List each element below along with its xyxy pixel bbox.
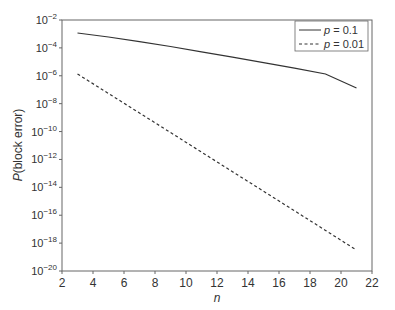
y-tick-label: 10−10 <box>31 124 57 138</box>
x-tick-label: 6 <box>121 276 128 290</box>
plot-area <box>62 20 372 271</box>
y-tick-label: 10−16 <box>31 207 57 221</box>
y-tick-label: 10−12 <box>31 151 57 165</box>
x-axis-ticks: 246810121416182022 <box>59 271 379 290</box>
x-tick-label: 4 <box>90 276 97 290</box>
legend: p = 0.1 p = 0.01 <box>295 21 368 51</box>
y-tick-label: 10−18 <box>31 235 57 249</box>
x-tick-label: 16 <box>272 276 286 290</box>
chart: 246810121416182022 10−210−410−610−810−10… <box>0 0 395 310</box>
legend-label-p01: p = 0.1 <box>323 24 358 36</box>
x-axis-label: n <box>214 291 221 305</box>
x-tick-label: 12 <box>210 276 224 290</box>
y-tick-label: 10−20 <box>31 263 57 277</box>
y-tick-label: 10−14 <box>31 179 57 193</box>
y-axis-label: P(block error) <box>11 109 25 182</box>
x-tick-label: 14 <box>241 276 255 290</box>
x-tick-label: 18 <box>303 276 317 290</box>
x-tick-label: 20 <box>334 276 348 290</box>
x-tick-label: 22 <box>365 276 379 290</box>
x-tick-label: 10 <box>179 276 193 290</box>
legend-label-p001: p = 0.01 <box>323 38 364 50</box>
y-tick-label: 10−6 <box>36 68 58 82</box>
y-tick-label: 10−8 <box>36 96 58 110</box>
x-tick-label: 8 <box>152 276 159 290</box>
x-tick-label: 2 <box>59 276 66 290</box>
y-tick-label: 10−4 <box>36 40 58 54</box>
y-axis-ticks: 10−210−410−610−810−1010−1210−1410−1610−1… <box>31 12 62 277</box>
y-tick-label: 10−2 <box>36 12 58 26</box>
